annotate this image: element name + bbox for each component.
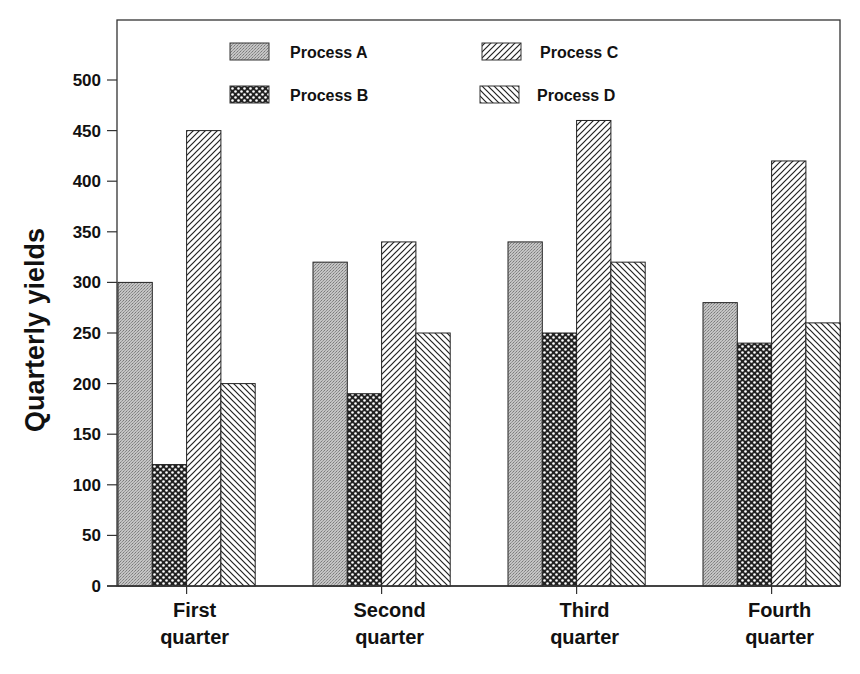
legend-label: Process D [537, 87, 615, 104]
x-category-label: Third [560, 599, 610, 621]
bar-process-c-q4 [772, 161, 806, 586]
bar-process-d-q4 [806, 323, 840, 586]
bar-process-b-q3 [542, 333, 576, 586]
legend-swatch-process-b [230, 86, 269, 103]
x-category-label: quarter [550, 626, 619, 648]
x-category-label: Second [353, 599, 425, 621]
y-tick-label: 250 [73, 324, 101, 343]
x-axis: FirstquarterSecondquarterThirdquarterFou… [107, 586, 840, 648]
y-tick-label: 0 [92, 577, 101, 596]
bar-process-d-q1 [221, 384, 255, 586]
legend-swatch-process-a [230, 43, 269, 60]
bar-process-a-q4 [703, 303, 737, 586]
legend-swatch-process-c [482, 43, 521, 60]
x-category-label: quarter [745, 626, 814, 648]
y-tick-label: 100 [73, 476, 101, 495]
y-axis-label: Quarterly yields [20, 228, 50, 432]
y-tick-label: 500 [73, 71, 101, 90]
bar-process-a-q1 [118, 282, 152, 586]
y-tick-label: 350 [73, 223, 101, 242]
bar-process-d-q3 [611, 262, 645, 586]
x-category-label: quarter [355, 626, 424, 648]
bar-process-a-q3 [508, 242, 542, 586]
bar-chart: 050100150200250300350400450500 Quarterly… [0, 0, 860, 674]
x-category-label: First [173, 599, 217, 621]
bar-process-c-q3 [577, 120, 611, 586]
legend-label: Process B [290, 87, 368, 104]
x-category-label: Fourth [748, 599, 811, 621]
x-category-label: quarter [160, 626, 229, 648]
bar-process-c-q1 [187, 131, 221, 586]
bar-process-b-q1 [152, 465, 186, 586]
bar-process-b-q4 [737, 343, 771, 586]
bar-process-c-q2 [382, 242, 416, 586]
y-tick-label: 450 [73, 122, 101, 141]
legend-swatch-process-d [480, 86, 519, 103]
legend: Process AProcess BProcess CProcess D [230, 43, 619, 104]
y-tick-label: 150 [73, 425, 101, 444]
y-tick-label: 400 [73, 172, 101, 191]
legend-label: Process C [540, 44, 619, 61]
bar-process-b-q2 [347, 394, 381, 586]
bars [118, 120, 840, 586]
y-tick-label: 50 [82, 526, 101, 545]
y-axis: 050100150200250300350400450500 [73, 71, 117, 596]
bar-process-d-q2 [416, 333, 450, 586]
y-tick-label: 200 [73, 375, 101, 394]
bar-process-a-q2 [313, 262, 347, 586]
legend-label: Process A [290, 44, 368, 61]
y-tick-label: 300 [73, 273, 101, 292]
